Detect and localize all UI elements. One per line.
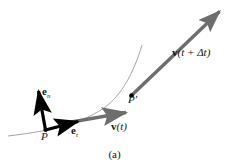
trajectory-diagram-canvas: [0, 0, 229, 167]
velocity-t-label: v(t): [111, 121, 127, 132]
physics-trajectory-figure: en et v(t) v(t + Δt) P P′ (a): [0, 0, 229, 167]
figure-caption: (a): [0, 149, 229, 160]
tangential-unit-vector-label: et: [71, 125, 78, 139]
normal-unit-vector-label: en: [42, 86, 50, 100]
point-p-label: P: [41, 131, 48, 142]
point-p-prime-label: P′: [128, 94, 137, 105]
velocity-t-plus-dt-label: v(t + Δt): [172, 47, 210, 58]
